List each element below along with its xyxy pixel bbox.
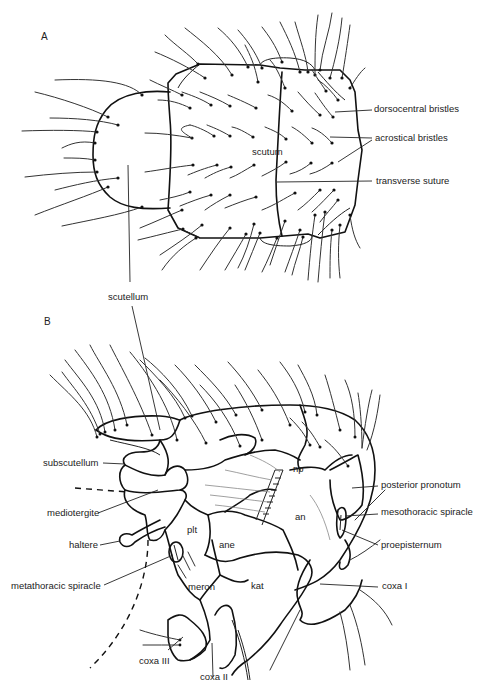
label-proepisternum: proepisternum [381, 539, 442, 550]
label-subscutellum: subscutellum [43, 457, 99, 468]
label-np: np [293, 463, 304, 474]
label-kat: kat [251, 580, 264, 591]
panel-a-label: A [41, 31, 48, 42]
label-scutellum: scutellum [108, 291, 148, 302]
panel-a: A [22, 13, 459, 302]
haltere-outline [120, 520, 165, 547]
bristles-a [22, 13, 365, 282]
label-acrostical-bristles: acrostical bristles [375, 132, 448, 143]
label-mediotergite: mediotergite [47, 507, 99, 518]
coxa-i-outline [297, 560, 362, 624]
label-transverse-suture: transverse suture [376, 175, 449, 186]
label-coxa-i: coxa I [382, 580, 407, 591]
mediotergite-outline [124, 490, 186, 541]
panel-b: B [11, 306, 473, 682]
katepisternum-outline [205, 552, 312, 675]
label-meron: meron [188, 581, 215, 592]
label-mesothoracic-spiracle: mesothoracic spiracle [381, 506, 473, 517]
coxa-iii-outline [168, 615, 206, 661]
dashed-outline [75, 488, 128, 492]
label-posterior-pronotum: posterior pronotum [381, 479, 461, 490]
bristles-b [50, 345, 392, 625]
label-coxa-ii: coxa II [200, 671, 228, 682]
label-plt: plt [187, 524, 197, 535]
label-ane: ane [219, 539, 235, 550]
mesothoracic-spiracle-outline [337, 508, 346, 538]
scutellum-outline [93, 91, 170, 208]
coxa-ii-outline [215, 605, 236, 668]
label-haltere: haltere [69, 539, 98, 550]
panel-b-label: B [44, 316, 51, 327]
label-an: an [295, 511, 306, 522]
label-dorsocentral-bristles: dorsocentral bristles [374, 103, 459, 114]
thorax-diagram: A [0, 0, 485, 698]
label-metathoracic-spiracle: metathoracic spiracle [11, 580, 101, 591]
label-coxa-iii: coxa III [139, 655, 170, 666]
label-scutum: scutum [252, 146, 283, 157]
